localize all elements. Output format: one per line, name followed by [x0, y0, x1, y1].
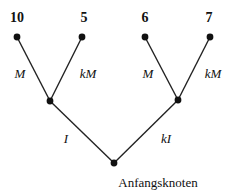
edge-root-node-left [50, 101, 114, 163]
edge-label-km-left: kM [80, 66, 97, 82]
edge-label-m-left: M [15, 66, 26, 82]
node-leaf-3 [142, 34, 149, 41]
leaf-value-1: 10 [10, 10, 24, 26]
edge-label-ki: kI [161, 131, 171, 147]
edge-label-m-right: M [143, 66, 154, 82]
edge-node-left-leaf-2 [50, 37, 82, 101]
tree-graphics [0, 0, 233, 193]
leaf-value-2: 5 [81, 10, 88, 26]
root-label: Anfangsknoten [118, 175, 197, 191]
node-root [111, 160, 118, 167]
edge-label-i: I [64, 131, 68, 147]
tree-diagram: 10 5 6 7 M kM M kM I kI Anfangsknoten [0, 0, 233, 193]
node-leaf-2 [79, 34, 86, 41]
node-leaf-1 [14, 34, 21, 41]
node-node-right [175, 97, 182, 104]
leaf-value-3: 6 [142, 10, 149, 26]
leaf-value-4: 7 [206, 10, 213, 26]
node-node-left [47, 98, 54, 105]
edge-label-km-right: kM [205, 66, 222, 82]
node-leaf-4 [207, 34, 214, 41]
